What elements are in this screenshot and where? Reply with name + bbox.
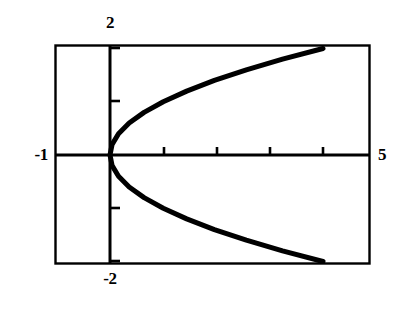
graph-figure: 2 -2 -1 5 (0, 0, 406, 312)
x-axis-min-label: -1 (22, 146, 48, 163)
y-axis-max-label: 2 (98, 14, 122, 31)
x-axis-max-label: 5 (378, 146, 404, 163)
y-axis-min-label: -2 (98, 270, 122, 287)
plot-canvas (0, 0, 406, 312)
